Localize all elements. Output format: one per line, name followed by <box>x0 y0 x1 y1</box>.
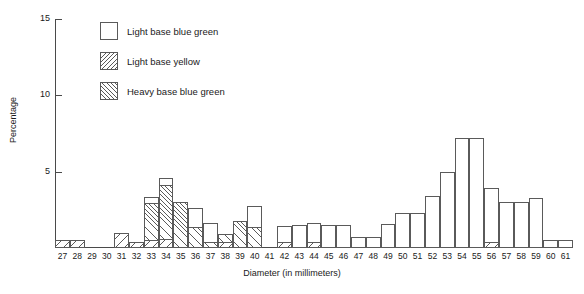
bar-segment <box>144 240 159 248</box>
bar <box>203 222 218 248</box>
bar <box>70 240 85 248</box>
bar-segment <box>55 240 70 248</box>
x-tick-label: 50 <box>395 251 410 261</box>
legend: Light base blue greenLight base yellowHe… <box>100 16 225 106</box>
bar-segment <box>277 226 292 243</box>
bar <box>159 176 174 248</box>
x-tick-label: 43 <box>292 251 307 261</box>
bar <box>218 233 233 248</box>
bar-segment <box>484 242 499 248</box>
bar <box>484 187 499 248</box>
bar-segment <box>469 138 484 248</box>
bar-segment <box>440 172 455 248</box>
bar <box>381 224 396 248</box>
bar <box>543 240 558 248</box>
bar-segment <box>307 223 322 243</box>
bar-segment <box>351 237 366 248</box>
bar-segment <box>336 225 351 248</box>
bar <box>366 237 381 248</box>
bar-segment <box>159 239 174 248</box>
legend-label: Heavy base blue green <box>127 86 225 97</box>
x-tick-label: 31 <box>114 251 129 261</box>
bar <box>247 205 262 248</box>
bar-segment <box>247 227 262 248</box>
x-tick-label: 30 <box>99 251 114 261</box>
x-tick-label: 51 <box>410 251 425 261</box>
x-tick-label: 36 <box>188 251 203 261</box>
x-tick-label: 48 <box>366 251 381 261</box>
legend-item: Heavy base blue green <box>100 76 225 106</box>
bar-segment <box>455 138 470 248</box>
x-tick-label: 37 <box>203 251 218 261</box>
bar-segment <box>499 202 514 248</box>
bar-segment <box>277 242 292 248</box>
bar-segment <box>558 240 573 248</box>
x-tick-label: 35 <box>173 251 188 261</box>
x-tick-label: 27 <box>55 251 70 261</box>
x-tick-label: 38 <box>218 251 233 261</box>
y-axis-label: Percentage <box>8 85 18 155</box>
bar <box>321 225 336 248</box>
bar-segment <box>159 185 174 240</box>
x-tick-label: 39 <box>233 251 248 261</box>
histogram-figure: 51015 Percentage Diameter (in millimeter… <box>0 0 584 294</box>
bar <box>55 240 70 248</box>
bar-segment <box>543 240 558 248</box>
bar-segment <box>144 203 159 241</box>
bar <box>425 196 440 248</box>
bar <box>292 225 307 248</box>
x-tick-label: 53 <box>440 251 455 261</box>
legend-swatch-hatch-back <box>100 52 118 70</box>
legend-swatch-plain <box>100 22 118 40</box>
x-tick-label: 59 <box>529 251 544 261</box>
bar-segment <box>321 225 336 248</box>
bar <box>129 242 144 248</box>
bar-segment <box>410 213 425 248</box>
legend-label: Light base blue green <box>127 26 218 37</box>
bar-segment <box>70 240 85 248</box>
bar-segment <box>114 233 129 248</box>
x-tick-label: 32 <box>129 251 144 261</box>
bar <box>351 237 366 248</box>
legend-item: Light base yellow <box>100 46 225 76</box>
bar-segment <box>188 227 203 248</box>
y-tick-label: 15 <box>28 14 50 23</box>
x-tick-label: 54 <box>455 251 470 261</box>
bar <box>440 172 455 248</box>
bar <box>307 222 322 248</box>
bar-segment <box>484 188 499 243</box>
x-tick-label: 41 <box>262 251 277 261</box>
bar-segment <box>292 225 307 248</box>
bar-segment <box>247 206 262 227</box>
bar-segment <box>425 196 440 248</box>
x-tick-label: 49 <box>381 251 396 261</box>
bar <box>114 233 129 248</box>
x-tick-label: 47 <box>351 251 366 261</box>
x-tick-label: 60 <box>543 251 558 261</box>
bar <box>469 138 484 248</box>
y-tick-label: 10 <box>28 90 50 99</box>
bar-segment <box>514 202 529 248</box>
legend-swatch-hatch-fwd <box>100 82 118 100</box>
bar <box>410 213 425 248</box>
x-tick-label: 29 <box>85 251 100 261</box>
bar <box>514 202 529 248</box>
legend-label: Light base yellow <box>127 56 200 67</box>
bar <box>277 225 292 248</box>
bar-segment <box>307 242 322 248</box>
x-tick-label: 28 <box>70 251 85 261</box>
legend-item: Light base blue green <box>100 16 225 46</box>
x-axis-label: Diameter (in millimeters) <box>0 268 584 278</box>
x-tick-label: 52 <box>425 251 440 261</box>
bar-segment <box>173 202 188 248</box>
bar <box>395 213 410 248</box>
x-tick-label: 34 <box>159 251 174 261</box>
bar <box>336 225 351 248</box>
plot-area: 51015 Percentage Diameter (in millimeter… <box>0 0 584 294</box>
bar-segment <box>129 242 144 248</box>
x-tick-label: 56 <box>484 251 499 261</box>
bar-segment <box>218 242 233 248</box>
x-tick-label: 45 <box>321 251 336 261</box>
x-tick-label: 46 <box>336 251 351 261</box>
y-tick-label: 5 <box>28 167 50 176</box>
